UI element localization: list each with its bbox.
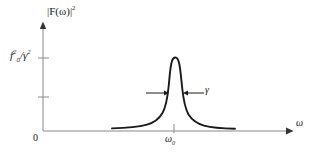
plot-canvas — [0, 0, 314, 156]
peak-label-num-sub: 0 — [16, 56, 19, 63]
x-tick-label-omega0: ω0 — [165, 134, 175, 144]
y-axis-arrowhead — [40, 22, 46, 30]
omega0-sub: 0 — [172, 139, 175, 146]
y-axis — [40, 22, 46, 132]
y-tick-label-peak-height: f20/γ2 — [10, 50, 31, 61]
linewidth-gamma-label: γ — [205, 85, 209, 95]
peak-label-den-sup: 2 — [27, 48, 30, 55]
lorentzian-curve — [112, 58, 235, 129]
resonance-lorentzian-figure: |F(ω)|2 f20/γ2 0 ω0 ω γ — [0, 0, 314, 156]
peak-label-num-sup: 2 — [13, 48, 16, 55]
x-axis-arrowhead — [286, 128, 294, 135]
curve-path — [112, 58, 235, 129]
x-axis-label: ω — [296, 118, 303, 128]
y-axis-label-exponent: 2 — [72, 4, 75, 11]
y-axis-label: |F(ω)|2 — [47, 6, 76, 17]
origin-label: 0 — [33, 133, 38, 143]
y-axis-label-base: |F(ω)| — [47, 5, 72, 17]
linewidth-annotation — [146, 90, 204, 95]
omega0-base: ω — [165, 133, 172, 144]
